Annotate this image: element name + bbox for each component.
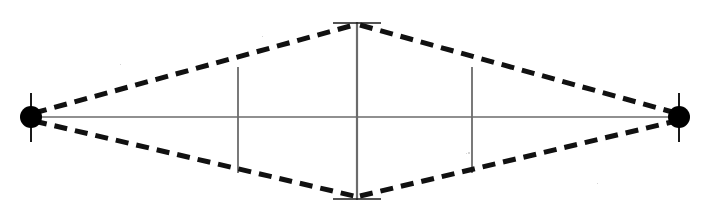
right-pin-node [668,106,690,128]
figure-canvas [0,0,710,215]
rhombus-truss-diagram [0,0,710,215]
figure-background [0,0,710,215]
left-pin-node [20,106,42,128]
